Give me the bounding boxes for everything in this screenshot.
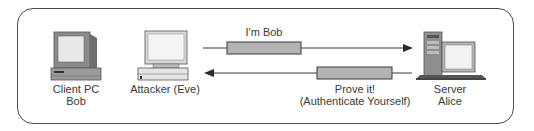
- message-label-prove-it-line2: (Authenticate Yourself): [295, 95, 415, 107]
- server-label-line2: Alice: [420, 95, 480, 107]
- diagram-graphics: [0, 0, 534, 131]
- attacker-label: Attacker (Eve): [125, 83, 205, 95]
- client-label-line2: Bob: [46, 95, 106, 107]
- server-icon: [416, 32, 486, 80]
- message-label-prove-it: Prove it! (Authenticate Yourself): [295, 83, 415, 107]
- server-label-line1: Server: [420, 83, 480, 95]
- message-label-im-bob: I'm Bob: [234, 26, 294, 38]
- message-label-im-bob-line1: I'm Bob: [234, 26, 294, 38]
- attacker-pc-icon: [138, 31, 188, 80]
- client-pc-icon: [51, 32, 101, 80]
- message-arrow-im-bob: [203, 42, 413, 54]
- message-arrow-prove-it: [204, 67, 412, 79]
- server-label: Server Alice: [420, 83, 480, 107]
- client-label: Client PC Bob: [46, 83, 106, 107]
- message-label-prove-it-line1: Prove it!: [295, 83, 415, 95]
- client-label-line1: Client PC: [46, 83, 106, 95]
- attacker-label-line1: Attacker (Eve): [125, 83, 205, 95]
